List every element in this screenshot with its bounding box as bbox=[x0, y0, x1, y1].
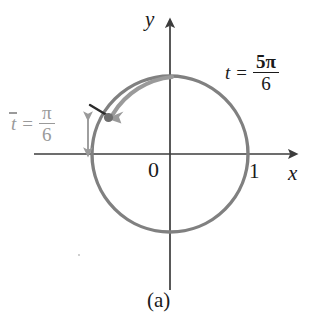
reference-number-label: t = π 6 bbox=[10, 103, 55, 145]
terminal-point-numerator: 5π bbox=[253, 52, 279, 72]
figure-canvas bbox=[0, 0, 328, 332]
scan-speck bbox=[78, 254, 80, 256]
terminal-point-equals: = bbox=[236, 63, 247, 82]
y-axis-label: y bbox=[145, 9, 154, 30]
x-axis-label: x bbox=[288, 163, 297, 184]
x-tick-label-one: 1 bbox=[249, 161, 260, 182]
terminal-point-variable: t bbox=[224, 63, 231, 82]
terminal-point-fraction: 5π 6 bbox=[253, 52, 279, 94]
terminal-point-dot bbox=[104, 113, 113, 122]
reference-number-numerator: π bbox=[39, 103, 55, 123]
reference-number-variable: t bbox=[10, 114, 17, 133]
origin-label: 0 bbox=[148, 159, 159, 181]
reference-number-fraction: π 6 bbox=[39, 103, 55, 145]
terminal-point-denominator: 6 bbox=[253, 72, 279, 93]
terminal-point-label: t = 5π 6 bbox=[224, 52, 279, 94]
reference-number-equals: = bbox=[22, 114, 33, 133]
reference-number-denominator: 6 bbox=[39, 123, 55, 144]
figure-caption: (a) bbox=[147, 290, 170, 311]
unit-circle-figure: y x 0 1 t = 5π 6 t = π 6 (a) bbox=[0, 0, 328, 332]
